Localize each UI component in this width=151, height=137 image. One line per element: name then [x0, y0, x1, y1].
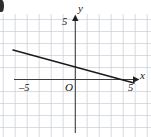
x-axis-tick-label-5: 5 [128, 83, 133, 94]
x-axis-tick-label-negative-5: –5 [19, 83, 30, 94]
plotted-line [13, 50, 134, 83]
y-axis-label: y [78, 3, 83, 14]
graph-figure: y x 5 –5 5 O [0, 0, 151, 137]
coordinate-plane [0, 0, 151, 137]
y-axis-tick-label-5: 5 [62, 17, 67, 28]
origin-label: O [65, 82, 73, 93]
x-axis-label: x [140, 70, 145, 81]
